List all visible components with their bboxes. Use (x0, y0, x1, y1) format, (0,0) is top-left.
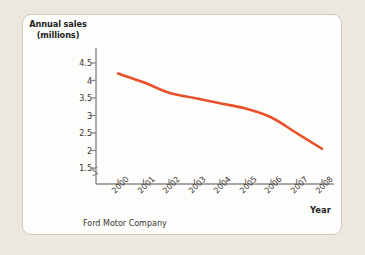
x-tick-label-2006: 2006 (263, 175, 284, 196)
x-tick-label-2005: 2005 (238, 175, 259, 196)
x-tick-label-2002: 2002 (161, 175, 182, 196)
x-tick-label-2001: 2001 (136, 175, 157, 196)
figure-container: Annual sales (millions) 4.543.532.521.5 … (0, 0, 365, 255)
x-axis-title: Year (310, 205, 331, 215)
x-tick-label-2003: 2003 (187, 175, 208, 196)
x-tick-label-2000: 2000 (110, 175, 131, 196)
x-tick-label-2004: 2004 (212, 175, 233, 196)
chart-caption: Ford Motor Company (83, 219, 167, 228)
x-axis-tick-labels: 200020012002200320042005200620072008 (0, 0, 365, 255)
x-tick-label-2008: 2008 (314, 175, 335, 196)
x-tick-label-2007: 2007 (289, 175, 310, 196)
